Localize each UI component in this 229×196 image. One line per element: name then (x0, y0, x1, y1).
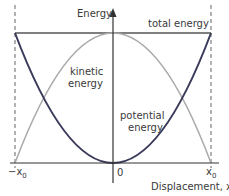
origin-label: 0 (117, 167, 123, 178)
potential-label-2: energy (128, 122, 163, 133)
x-axis-label: Displacement, x (151, 181, 229, 192)
potential-label-1: potential (120, 110, 164, 121)
energy-diagram (0, 0, 229, 196)
pos-x0-label: x0 (206, 166, 216, 182)
kinetic-label-2: energy (68, 78, 103, 89)
neg-x0-label: −x0 (8, 166, 27, 182)
y-axis-label: Energy (77, 8, 112, 19)
kinetic-label-1: kinetic (70, 66, 103, 77)
total-energy-label: total energy (148, 18, 209, 29)
